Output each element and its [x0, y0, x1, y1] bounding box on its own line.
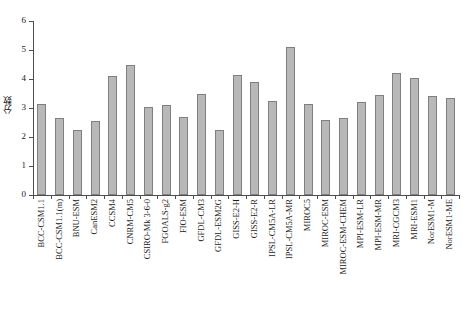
bar	[37, 104, 46, 195]
x-tick-label: BNU-ESM	[72, 199, 81, 237]
x-tick-label: MIROC-ESM	[321, 199, 330, 247]
x-tick-label: CNRM-CM5	[126, 199, 135, 244]
bar	[215, 130, 224, 195]
bar	[179, 117, 188, 195]
bar	[286, 47, 295, 195]
bar	[428, 96, 437, 195]
x-tick-label: MPI-ESM-MR	[374, 199, 383, 250]
plot-area: 0123456	[33, 21, 459, 195]
x-tick-label: CSIRO-Mk 3-6-0	[143, 199, 152, 259]
bar	[375, 95, 384, 195]
bar	[339, 118, 348, 195]
x-tick-label: MIROC-ESM-CHEM	[339, 199, 348, 275]
bar	[144, 107, 153, 195]
bar	[321, 120, 330, 195]
x-tick-label: MRI-CGCM3	[392, 199, 401, 247]
bar	[446, 98, 455, 195]
x-tick-label: MRI-ESM1	[410, 199, 419, 240]
bar	[55, 118, 64, 195]
bar-chart: 分数 0123456 BCC-CSM1.1BCC-CSM1.1(m)BNU-ES…	[0, 0, 469, 312]
x-tick	[459, 195, 460, 199]
y-tick-label: 3	[22, 102, 27, 113]
x-tick-label: GISS-E2-R	[250, 199, 259, 238]
bar	[250, 82, 259, 195]
x-tick-label: GFDL-ESM2G	[214, 199, 223, 252]
x-tick-label: CanESM2	[90, 199, 99, 234]
bar	[162, 105, 171, 195]
x-tick-label: BCC-CSM1.1	[37, 199, 46, 247]
x-tick-label: NorESM1-ME	[445, 199, 454, 250]
bar	[268, 101, 277, 195]
bar	[410, 78, 419, 195]
y-tick-label: 4	[22, 73, 27, 84]
bar	[357, 102, 366, 195]
y-axis-title: 分数	[2, 96, 18, 114]
y-tick-label: 1	[22, 160, 27, 171]
y-tick-label: 5	[22, 44, 27, 55]
bar	[126, 65, 135, 196]
y-tick-label: 2	[22, 131, 27, 142]
x-tick-label: GFDL-CM3	[197, 199, 206, 242]
bar	[304, 104, 313, 195]
x-tick-label: FIO-ESM	[179, 199, 188, 233]
bars-group	[33, 21, 459, 195]
x-tick-label: IPSL-CM5A-MR	[285, 199, 294, 259]
x-tick-label: CCSM4	[108, 199, 117, 227]
x-axis-labels: BCC-CSM1.1BCC-CSM1.1(m)BNU-ESMCanESM2CCS…	[33, 199, 459, 311]
x-tick-label: FGOALS-g2	[161, 199, 170, 243]
y-tick-label: 0	[22, 189, 27, 200]
bar	[392, 73, 401, 195]
bar	[233, 75, 242, 195]
x-tick-label: GISS-E2-H	[232, 199, 241, 239]
x-tick-label: MIROC5	[303, 199, 312, 231]
y-tick-label: 6	[22, 15, 27, 26]
x-tick-label: NorESM1-M	[427, 199, 436, 244]
bar	[73, 130, 82, 195]
x-tick-label: MPI-ESM-LR	[356, 199, 365, 248]
x-tick-label: IPSL-CM5A-LR	[268, 199, 277, 257]
bar	[197, 94, 206, 196]
bar	[108, 76, 117, 195]
x-tick-label: BCC-CSM1.1(m)	[55, 199, 64, 260]
bar	[91, 121, 100, 195]
